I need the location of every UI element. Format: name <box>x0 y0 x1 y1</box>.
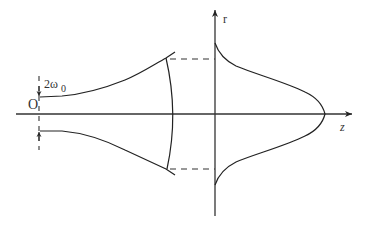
waist-label-main: 2ω <box>44 77 58 91</box>
z-axis-label: z <box>340 121 345 133</box>
waist-label-sub: 0 <box>61 83 66 94</box>
origin-label: O <box>28 98 38 112</box>
waist-label: 2ω0 <box>44 78 66 90</box>
r-axis-label: r <box>223 13 227 25</box>
gaussian-beam-diagram <box>0 0 368 229</box>
beam-envelope-lower <box>40 131 175 175</box>
